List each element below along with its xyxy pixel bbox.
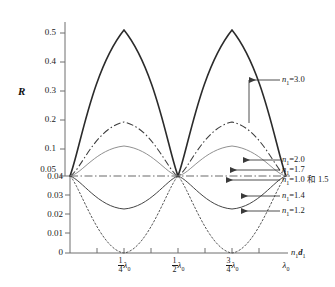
curve-n1-1-7 <box>70 146 286 176</box>
y-ticks-lower <box>65 176 70 253</box>
fraction-three-quarters: 34 <box>226 257 232 275</box>
y-tick-lower-1: 0.03 <box>28 191 63 200</box>
leader-n1-1-2 <box>241 208 280 214</box>
y-axis-label: R <box>18 86 25 97</box>
fraction-quarter: 14 <box>118 257 124 275</box>
y-ticks-upper <box>60 33 65 176</box>
curve-n1-1-4 <box>70 176 286 209</box>
x-ticks <box>97 248 259 253</box>
fraction-half: 12 <box>172 257 178 275</box>
x-tick-label-3: λ0 <box>266 261 306 272</box>
y-tick-upper-0: 0.5 <box>26 28 56 37</box>
annotation-n1-1-0-and-1-5: n1=1.0 和 1.5 <box>282 175 329 186</box>
curve-n1-2-0 <box>70 122 286 176</box>
leader-n1-1-4 <box>241 193 280 199</box>
x-tick-label-0: 14λ0 <box>104 257 144 275</box>
curve-n1-1-2 <box>70 176 286 253</box>
curve-n1-3-0 <box>70 30 286 176</box>
y-tick-upper-1: 0.4 <box>26 57 56 66</box>
y-tick-lower-0: 0.04 <box>28 172 63 181</box>
annotation-n1-3-0: n1=3.0 <box>282 75 305 86</box>
y-tick-upper-2: 0.3 <box>26 86 56 95</box>
leader-n1-1-0-and-1-5 <box>226 177 280 183</box>
y-tick-lower-2: 0.02 <box>28 210 63 219</box>
annotation-n1-1-4: n1=1.4 <box>282 191 305 202</box>
y-tick-upper-3: 0.2 <box>26 115 56 124</box>
annotation-n1-1-2: n1=1.2 <box>282 206 305 217</box>
x-tick-label-1: 12λ0 <box>158 257 198 275</box>
lambda-symbol: λ0 <box>283 260 290 270</box>
lambda-symbol: λ0 <box>232 260 239 270</box>
lambda-symbol: λ0 <box>178 260 185 270</box>
y-tick-lower-4: 0 <box>28 248 63 257</box>
y-tick-lower-3: 0.01 <box>28 229 63 238</box>
y-tick-upper-4: 0.1 <box>26 144 56 153</box>
x-axis-label: n1d1 <box>291 248 306 259</box>
lambda-symbol: λ0 <box>124 260 131 270</box>
x-tick-label-2: 34λ0 <box>212 257 252 275</box>
